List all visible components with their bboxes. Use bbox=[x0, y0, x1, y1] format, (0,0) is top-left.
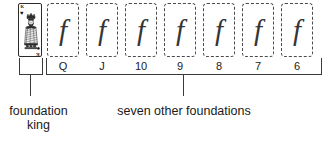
foundation-f-glyph: f bbox=[165, 16, 195, 45]
spade-icon: ♠ bbox=[37, 45, 40, 51]
foundation-f-glyph: f bbox=[87, 16, 117, 45]
foundation-slot-q: f bbox=[47, 3, 79, 57]
bracket-foundation-king bbox=[19, 58, 43, 75]
foundation-f-glyph: f bbox=[48, 16, 78, 45]
card-rank-bottom-right: K bbox=[36, 51, 40, 56]
foundation-slot-6: f bbox=[281, 3, 313, 57]
foundation-slot-8: f bbox=[203, 3, 235, 57]
leader-line-others bbox=[183, 75, 184, 96]
foundation-slot-10: f bbox=[125, 3, 157, 57]
leader-line-king bbox=[30, 75, 31, 96]
caption-seven-other-foundations: seven other foundations bbox=[96, 104, 272, 118]
foundation-slot-7: f bbox=[242, 3, 274, 57]
foundation-f-glyph: f bbox=[204, 16, 234, 45]
foundation-f-glyph: f bbox=[282, 16, 312, 45]
figure-canvas: K ♥ bbox=[0, 0, 329, 141]
foundation-king-card: K ♥ bbox=[18, 3, 42, 57]
caption-foundation-king: foundation king bbox=[0, 104, 77, 132]
foundation-f-glyph: f bbox=[243, 16, 273, 45]
bracket-other-foundations bbox=[46, 58, 322, 75]
foundation-slot-9: f bbox=[164, 3, 196, 57]
foundation-slot-j: f bbox=[86, 3, 118, 57]
foundation-f-glyph: f bbox=[126, 16, 156, 45]
